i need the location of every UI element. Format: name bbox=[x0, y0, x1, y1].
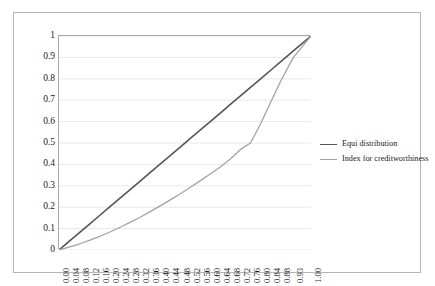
y-tick-label: 0.6 bbox=[27, 116, 55, 126]
legend-label: Index for creditworthiness bbox=[342, 154, 428, 164]
x-tick-label: 0.36 bbox=[152, 268, 161, 283]
x-tick-label: 0.44 bbox=[172, 268, 181, 283]
y-tick-label: 0.4 bbox=[27, 158, 55, 168]
x-tick-label: 0.68 bbox=[233, 268, 242, 283]
x-tick-label: 0.28 bbox=[132, 268, 141, 283]
y-tick-label: 0.3 bbox=[27, 180, 55, 190]
legend-item[interactable]: Index for creditworthiness bbox=[320, 152, 435, 166]
y-tick-label: 0.5 bbox=[27, 137, 55, 147]
x-tick-label: 0.12 bbox=[92, 268, 101, 283]
x-tick-label: 0.08 bbox=[82, 268, 91, 283]
legend-swatch-icon bbox=[320, 159, 337, 160]
x-tick-label: 0.60 bbox=[213, 268, 222, 283]
x-tick-label: 0.48 bbox=[183, 268, 192, 283]
chart-legend: Equi distributionIndex for creditworthin… bbox=[320, 137, 435, 167]
x-tick-label: 0.93 bbox=[296, 268, 305, 283]
x-tick-label: 0.88 bbox=[283, 268, 292, 283]
y-axis: 00.10.20.30.40.50.60.70.80.91 bbox=[27, 35, 55, 249]
x-tick-label: 0.20 bbox=[112, 268, 121, 283]
x-tick-label: 0.84 bbox=[273, 268, 282, 283]
y-tick-label: 0.2 bbox=[27, 201, 55, 211]
x-tick-label: 0.80 bbox=[263, 268, 272, 283]
x-tick-label: 0.72 bbox=[243, 268, 252, 283]
y-tick-label: 0.7 bbox=[27, 94, 55, 104]
x-tick-label: 0.64 bbox=[223, 268, 232, 283]
plot-area bbox=[58, 35, 310, 249]
chart-figure: 00.10.20.30.40.50.60.70.80.91 0.000.040.… bbox=[0, 0, 435, 286]
x-tick-label: 0.04 bbox=[72, 268, 81, 283]
x-tick-label: 0.24 bbox=[122, 268, 131, 283]
y-tick-label: 0 bbox=[27, 244, 55, 254]
legend-label: Equi distribution bbox=[342, 139, 397, 149]
y-tick-label: 1 bbox=[27, 30, 55, 40]
y-tick-label: 0.1 bbox=[27, 223, 55, 233]
x-tick-label: 0.16 bbox=[102, 268, 111, 283]
x-axis: 0.000.040.080.120.160.200.240.280.320.36… bbox=[58, 251, 310, 285]
x-tick-label: 0.32 bbox=[142, 268, 151, 283]
x-tick-label: 0.56 bbox=[203, 268, 212, 283]
x-tick-label: 0.76 bbox=[253, 268, 262, 283]
plot-canvas bbox=[59, 36, 311, 250]
x-tick-label: 1.00 bbox=[314, 268, 323, 283]
y-tick-label: 0.9 bbox=[27, 51, 55, 61]
chart-frame: 00.10.20.30.40.50.60.70.80.91 0.000.040.… bbox=[13, 12, 421, 273]
y-tick-label: 0.8 bbox=[27, 73, 55, 83]
x-tick-label: 0.52 bbox=[193, 268, 202, 283]
legend-swatch-icon bbox=[320, 144, 337, 145]
x-tick-label: 0.00 bbox=[62, 268, 71, 283]
legend-item[interactable]: Equi distribution bbox=[320, 137, 435, 151]
